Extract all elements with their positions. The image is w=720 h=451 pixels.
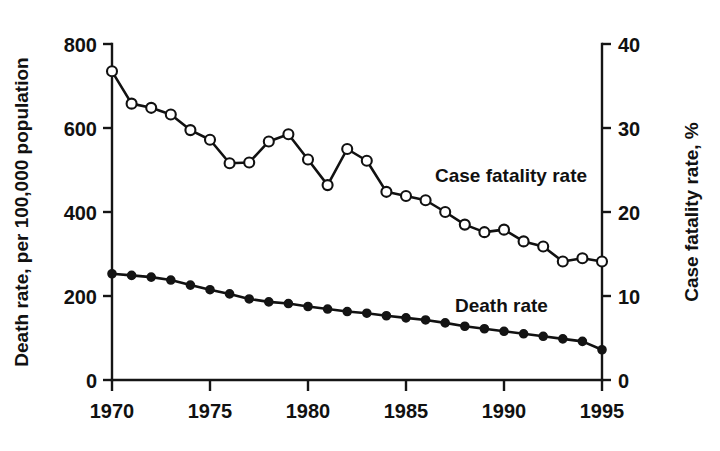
data-point xyxy=(538,241,548,251)
data-point xyxy=(500,327,508,335)
data-point xyxy=(479,227,489,237)
data-point xyxy=(520,330,528,338)
data-point xyxy=(480,325,488,333)
x-axis-ticks xyxy=(112,380,602,391)
data-point xyxy=(577,253,587,263)
data-point xyxy=(283,129,293,139)
left-axis-ticks xyxy=(103,44,112,380)
data-point xyxy=(186,281,194,289)
data-point xyxy=(107,66,117,76)
data-point xyxy=(421,195,431,205)
right-tick-label-10: 10 xyxy=(618,286,640,308)
data-point xyxy=(323,180,333,190)
death-rate-annotation: Death rate xyxy=(455,295,548,316)
data-point xyxy=(226,290,234,298)
data-point xyxy=(324,305,332,313)
case-fatality-rate-annotation: Case fatality rate xyxy=(435,165,587,186)
data-point xyxy=(264,136,274,146)
data-point xyxy=(343,308,351,316)
x-axis-tick-labels: 197019751980198519901995 xyxy=(90,400,625,422)
data-point xyxy=(128,271,136,279)
data-point xyxy=(342,144,352,154)
data-point xyxy=(167,276,175,284)
data-point xyxy=(166,110,176,120)
data-point xyxy=(440,207,450,217)
left-tick-label-800: 800 xyxy=(64,34,97,56)
data-point xyxy=(460,220,470,230)
right-tick-label-0: 0 xyxy=(618,370,629,392)
data-point xyxy=(265,298,273,306)
data-point xyxy=(303,155,313,165)
data-point xyxy=(401,191,411,201)
x-tick-label-1975: 1975 xyxy=(188,400,233,422)
data-point xyxy=(499,225,509,235)
x-tick-label-1980: 1980 xyxy=(286,400,331,422)
chart-figure: Death rate, per 100,000 population Case … xyxy=(0,0,720,451)
data-point xyxy=(597,257,607,267)
data-point xyxy=(382,312,390,320)
data-point xyxy=(598,346,606,354)
data-point xyxy=(127,99,137,109)
line-chart: Death rate, per 100,000 population Case … xyxy=(0,0,720,451)
left-axis-title: Death rate, per 100,000 population xyxy=(11,57,32,366)
data-point xyxy=(461,322,469,330)
data-point xyxy=(146,103,156,113)
left-tick-label-0: 0 xyxy=(86,370,97,392)
left-axis-tick-labels: 800 600 400 200 0 xyxy=(64,34,97,392)
data-point xyxy=(558,257,568,267)
right-tick-label-20: 20 xyxy=(618,202,640,224)
data-point xyxy=(205,135,215,145)
data-point xyxy=(244,157,254,167)
data-point xyxy=(284,300,292,308)
data-point xyxy=(108,270,116,278)
data-point xyxy=(539,332,547,340)
data-point xyxy=(402,314,410,322)
right-tick-label-30: 30 xyxy=(618,118,640,140)
data-point xyxy=(304,303,312,311)
x-tick-label-1990: 1990 xyxy=(482,400,527,422)
right-axis-title: Case fatality rate, % xyxy=(681,122,702,302)
data-point xyxy=(519,236,529,246)
data-point xyxy=(225,158,235,168)
data-point xyxy=(185,125,195,135)
x-tick-label-1985: 1985 xyxy=(384,400,429,422)
data-point xyxy=(206,286,214,294)
right-axis-ticks xyxy=(602,44,611,380)
data-point xyxy=(245,295,253,303)
data-point xyxy=(559,335,567,343)
data-point xyxy=(441,319,449,327)
x-tick-label-1995: 1995 xyxy=(580,400,625,422)
left-tick-label-200: 200 xyxy=(64,286,97,308)
data-point xyxy=(422,316,430,324)
data-point xyxy=(381,187,391,197)
right-tick-label-40: 40 xyxy=(618,34,640,56)
data-point xyxy=(578,337,586,345)
right-axis-tick-labels: 40 30 20 10 0 xyxy=(618,34,640,392)
data-point xyxy=(147,273,155,281)
data-point xyxy=(363,309,371,317)
x-tick-label-1970: 1970 xyxy=(90,400,135,422)
data-point xyxy=(362,156,372,166)
left-tick-label-400: 400 xyxy=(64,202,97,224)
left-tick-label-600: 600 xyxy=(64,118,97,140)
